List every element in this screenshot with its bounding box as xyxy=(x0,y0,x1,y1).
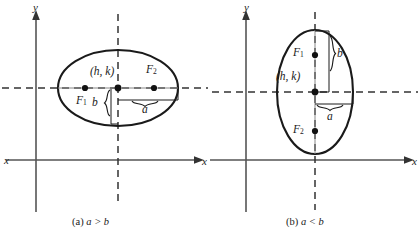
focus-1-subscript-b: 1 xyxy=(300,50,304,59)
focus-1-label-b: F1 xyxy=(293,47,304,59)
brace-b-b xyxy=(330,36,336,71)
caption-a-prefix: (a) xyxy=(72,216,84,227)
focus-2-label-a: F2 xyxy=(146,64,157,76)
focus-1-letter-a: F xyxy=(76,94,83,106)
panel-b-graphics xyxy=(210,0,420,238)
x-axis-label-a: x xyxy=(202,156,207,167)
focus-1-label-a: F1 xyxy=(76,95,87,107)
figure-root: y x (h, k) F1 F2 b a (a) a > b xyxy=(0,0,420,238)
focus-1-letter-b: F xyxy=(293,46,300,58)
caption-b: (b) a < b xyxy=(286,216,324,227)
caption-b-prefix: (b) xyxy=(286,216,298,227)
focus-2-subscript-b: 2 xyxy=(300,127,304,136)
center-label-a: (h, k) xyxy=(90,66,114,78)
focus-2-dot-a xyxy=(151,85,157,91)
caption-a-body: a > b xyxy=(86,216,109,227)
panel-ellipse-horizontal: y x (h, k) F1 F2 b a (a) a > b xyxy=(0,0,210,238)
semi-major-label-a: a xyxy=(142,104,148,116)
y-axis-label-b: y xyxy=(244,2,249,13)
focus-1-dot-a xyxy=(82,85,88,91)
panel-ellipse-vertical: y x (h, k) F1 F2 b a (b) a < b xyxy=(210,0,420,238)
focus-2-letter-a: F xyxy=(146,63,153,75)
center-dot-a xyxy=(115,85,122,92)
caption-a: (a) a > b xyxy=(72,216,109,227)
focus-2-letter-b: F xyxy=(293,123,300,135)
center-label-b: (h, k) xyxy=(276,71,300,83)
center-dot-b xyxy=(312,89,319,96)
panel-a-graphics xyxy=(0,0,210,238)
y-axis-b xyxy=(242,10,250,212)
x-axis-label-b: x xyxy=(412,156,417,167)
focus-2-label-b: F2 xyxy=(293,124,304,136)
caption-b-body: a < b xyxy=(301,216,324,227)
semi-minor-label-a: b xyxy=(92,97,98,109)
focus-2-dot-b xyxy=(312,128,318,134)
y-axis-a xyxy=(32,10,40,212)
semi-minor-label-b: a xyxy=(327,111,333,123)
y-axis-label-a: y xyxy=(33,2,38,13)
x-axis-b xyxy=(210,156,414,164)
focus-2-subscript-a: 2 xyxy=(153,67,157,76)
brace-b-a xyxy=(105,90,111,116)
margin-x-label: x xyxy=(4,155,9,166)
focus-1-subscript-a: 1 xyxy=(83,98,87,107)
semi-major-label-b: b xyxy=(337,48,343,60)
focus-1-dot-b xyxy=(312,52,318,58)
